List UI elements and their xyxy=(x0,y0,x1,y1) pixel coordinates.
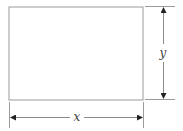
height-label: y xyxy=(159,46,167,60)
rectangle-shape xyxy=(9,7,143,100)
width-label: x xyxy=(74,110,81,124)
rectangle-dimension-diagram: y x xyxy=(0,0,183,131)
height-dimension: y xyxy=(145,7,175,100)
width-dimension: x xyxy=(10,102,144,128)
